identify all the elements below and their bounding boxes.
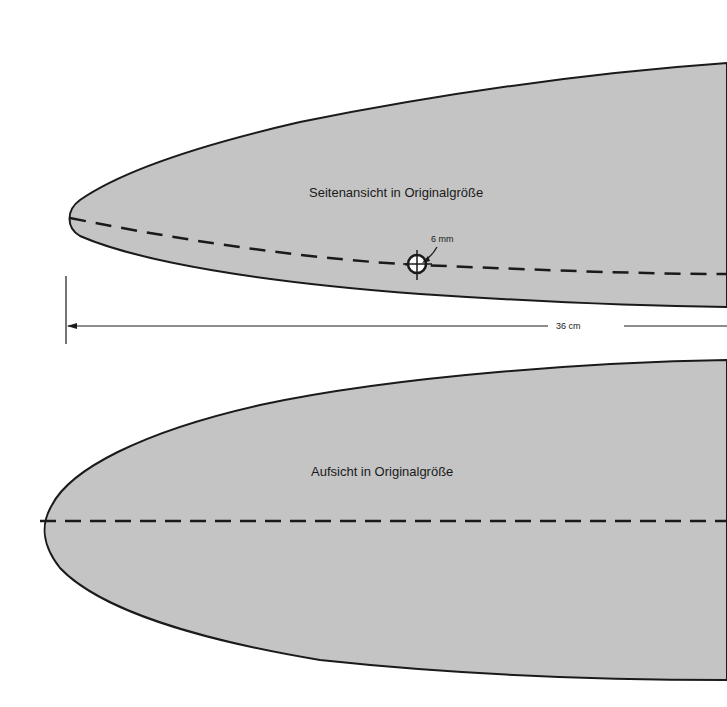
hole-diameter-label: 6 mm xyxy=(431,234,454,244)
length-dimension-label: 36 cm xyxy=(556,321,581,331)
arrowhead-left-icon xyxy=(67,323,77,329)
top-view-title: Aufsicht in Originalgröße xyxy=(311,464,453,479)
side-view-title: Seitenansicht in Originalgröße xyxy=(309,185,483,200)
template-drawing xyxy=(0,0,727,707)
top-view-shape xyxy=(40,360,727,680)
